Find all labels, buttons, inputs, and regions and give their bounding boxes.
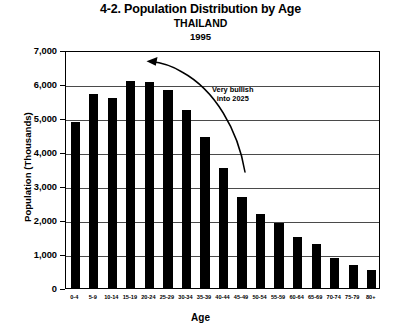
x-axis-title: Age	[0, 312, 401, 323]
bar	[200, 137, 209, 288]
bar	[293, 237, 302, 288]
bar	[349, 265, 358, 288]
title-block: 4-2. Population Distribution by Age THAI…	[0, 2, 401, 43]
bar	[89, 94, 98, 288]
bar	[182, 110, 191, 289]
annotation-line-2: into 2025	[212, 94, 254, 103]
x-tick-label: 80+	[357, 294, 385, 301]
bar	[237, 197, 246, 288]
y-tick-label: 6,000	[5, 80, 57, 90]
y-tick-label: 4,000	[5, 148, 57, 158]
bar	[312, 244, 321, 288]
chart-subtitle-year: 1995	[0, 31, 401, 43]
bar	[367, 270, 376, 288]
page-title: 4-2. Population Distribution by Age	[0, 2, 401, 16]
bar	[145, 82, 154, 288]
annotation-very-bullish: Very bullish into 2025	[212, 85, 254, 104]
y-tick-label: 0	[5, 284, 57, 294]
annotation-line-1: Very bullish	[212, 85, 254, 94]
chart-root: 4-2. Population Distribution by Age THAI…	[0, 0, 401, 334]
chart-subtitle-country: THAILAND	[0, 17, 401, 30]
y-axis-title: Population (Thousands)	[22, 112, 33, 222]
y-tick-label: 5,000	[5, 114, 57, 124]
bar	[126, 81, 135, 288]
bar	[274, 223, 283, 288]
bar	[108, 98, 117, 288]
bar	[219, 168, 228, 288]
bar	[163, 90, 172, 288]
y-tick-label: 3,000	[5, 182, 57, 192]
bar	[330, 258, 339, 288]
bar	[71, 122, 80, 288]
y-tick-label: 2,000	[5, 216, 57, 226]
y-tick-label: 1,000	[5, 250, 57, 260]
y-tick-label: 7,000	[5, 46, 57, 56]
bar	[256, 214, 265, 288]
